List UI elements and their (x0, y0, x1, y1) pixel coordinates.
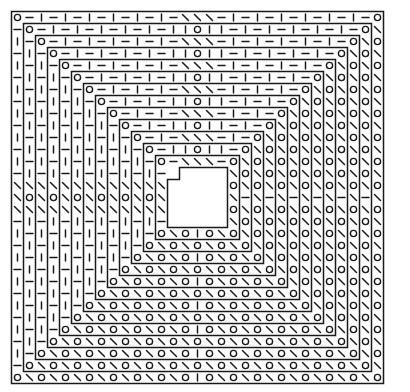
yarn-over-symbol (266, 362, 272, 368)
decrease-symbol (159, 291, 165, 297)
yarn-over-symbol (326, 278, 332, 284)
decrease-symbol (123, 351, 129, 357)
yarn-over-symbol (314, 362, 320, 368)
decrease-symbol (255, 171, 261, 177)
yarn-over-symbol (302, 134, 308, 140)
decrease-symbol (255, 147, 261, 153)
yarn-over-symbol (254, 278, 260, 284)
yarn-over-symbol (242, 314, 248, 320)
yarn-over-symbol (254, 326, 260, 332)
yarn-over-symbol (218, 362, 224, 368)
yarn-over-symbol (134, 254, 140, 260)
decrease-symbol (27, 375, 33, 381)
decrease-symbol (63, 183, 69, 189)
yarn-over-symbol (278, 206, 284, 212)
yarn-over-symbol (122, 122, 128, 128)
yarn-over-symbol (326, 158, 332, 164)
decrease-symbol (315, 231, 321, 237)
yarn-over-symbol (254, 254, 260, 260)
yarn-over-symbol (278, 110, 284, 116)
decrease-symbol (339, 111, 345, 117)
yarn-over-symbol (170, 362, 176, 368)
decrease-symbol (243, 327, 249, 333)
decrease-symbol (51, 351, 57, 357)
yarn-over-symbol (62, 62, 68, 68)
decrease-symbol (87, 315, 93, 321)
decrease-symbol (303, 315, 309, 321)
decrease-symbol (267, 327, 273, 333)
decrease-symbol (183, 291, 189, 297)
yarn-over-symbol (266, 218, 272, 224)
decrease-symbol (375, 339, 381, 345)
decrease-symbol (75, 351, 81, 357)
decrease-symbol (99, 351, 105, 357)
decrease-symbol (231, 195, 237, 201)
decrease-symbol (75, 207, 81, 213)
decrease-symbol (195, 39, 201, 45)
decrease-symbol (375, 27, 381, 33)
decrease-symbol (351, 147, 357, 153)
decrease-symbol (375, 363, 381, 369)
yarn-over-symbol (338, 242, 344, 248)
yarn-over-symbol (242, 146, 248, 152)
decrease-symbol (135, 363, 141, 369)
yarn-over-symbol (338, 122, 344, 128)
decrease-symbol (339, 87, 345, 93)
yarn-over-symbol (302, 110, 308, 116)
yarn-over-symbol (314, 242, 320, 248)
decrease-symbol (207, 111, 213, 117)
yarn-over-symbol (302, 350, 308, 356)
yarn-over-symbol (374, 302, 380, 308)
yarn-over-symbol (182, 374, 188, 380)
decrease-symbol (363, 375, 369, 381)
decrease-symbol (267, 207, 273, 213)
yarn-over-symbol (278, 302, 284, 308)
yarn-over-symbol (158, 278, 164, 284)
yarn-over-symbol (314, 170, 320, 176)
yarn-over-symbol (314, 98, 320, 104)
yarn-over-symbol (374, 14, 380, 20)
yarn-over-symbol (338, 362, 344, 368)
decrease-symbol (51, 183, 57, 189)
yarn-over-symbol (158, 158, 164, 164)
decrease-symbol (267, 231, 273, 237)
yarn-over-symbol (218, 242, 224, 248)
decrease-symbol (99, 327, 105, 333)
yarn-over-symbol (86, 326, 92, 332)
decrease-symbol (207, 159, 213, 165)
decrease-symbol (243, 303, 249, 309)
decrease-symbol (303, 171, 309, 177)
decrease-symbol (279, 219, 285, 225)
yarn-over-symbol (350, 302, 356, 308)
yarn-over-symbol (194, 26, 200, 32)
decrease-symbol (315, 327, 321, 333)
decrease-symbol (291, 183, 297, 189)
decrease-symbol (123, 207, 129, 213)
decrease-symbol (243, 207, 249, 213)
decrease-symbol (339, 279, 345, 285)
decrease-symbol (183, 63, 189, 69)
yarn-over-symbol (290, 98, 296, 104)
decrease-symbol (243, 231, 249, 237)
decrease-symbol (363, 207, 369, 213)
decrease-symbol (363, 351, 369, 357)
yarn-over-symbol (86, 86, 92, 92)
decrease-symbol (15, 207, 21, 213)
yarn-over-symbol (290, 362, 296, 368)
yarn-over-symbol (338, 338, 344, 344)
decrease-symbol (351, 267, 357, 273)
decrease-symbol (171, 303, 177, 309)
decrease-symbol (87, 207, 93, 213)
decrease-symbol (363, 159, 369, 165)
yarn-over-symbol (134, 134, 140, 140)
decrease-symbol (159, 363, 165, 369)
yarn-over-symbol (362, 338, 368, 344)
decrease-symbol (75, 183, 81, 189)
decrease-symbol (195, 87, 201, 93)
decrease-symbol (171, 351, 177, 357)
decrease-symbol (183, 363, 189, 369)
yarn-over-symbol (302, 254, 308, 260)
yarn-over-symbol (122, 266, 128, 272)
decrease-symbol (123, 279, 129, 285)
yarn-over-symbol (230, 302, 236, 308)
